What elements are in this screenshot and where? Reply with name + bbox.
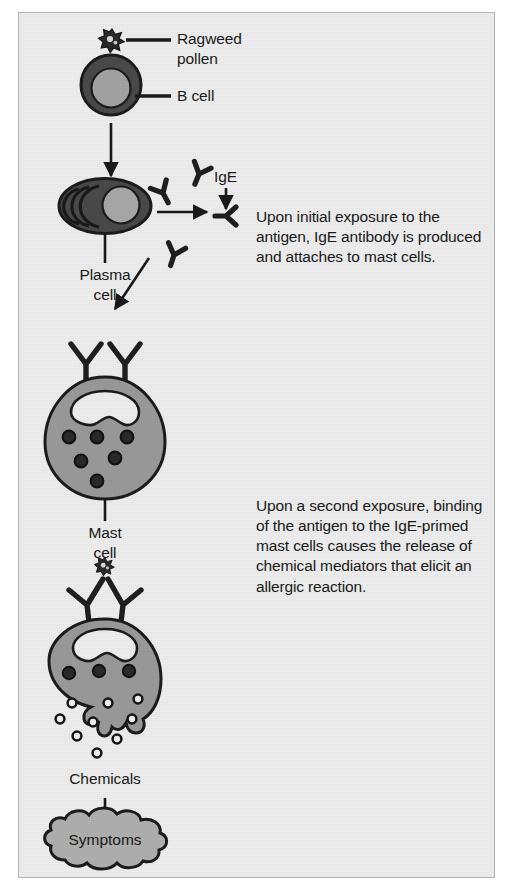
ige-antibody-icon [69, 579, 103, 622]
ige-antibody-icon [108, 579, 141, 622]
b-cell-icon [81, 55, 141, 115]
label-ragweed-pollen-line2: pollen [177, 50, 218, 68]
ragweed-pollen-icon [99, 29, 125, 53]
mast-cell-icon [45, 344, 165, 499]
annotation-step1: Upon initial exposure to the antigen, Ig… [256, 207, 488, 267]
label-symptoms: Symptoms [68, 831, 141, 849]
label-plasma-cell-line2: cell [94, 286, 117, 304]
ige-antibody-icon [71, 344, 101, 381]
diagram-artwork [19, 13, 495, 878]
label-ragweed-pollen-line1: Ragweed [177, 30, 242, 48]
ige-antibody-icon [215, 207, 236, 225]
label-plasma-cell-line1: Plasma [79, 266, 130, 284]
ige-antibody-icon [187, 161, 212, 187]
plasma-cell-icon [59, 179, 151, 234]
ige-antibody-icon [162, 243, 186, 269]
degranulating-mast-cell-icon [49, 557, 161, 757]
ige-antibody-icon [150, 180, 176, 207]
label-chemicals: Chemicals [69, 770, 140, 788]
label-ige: IgE [214, 168, 237, 186]
label-mast-cell-line1: Mast [88, 524, 121, 542]
annotation-step2: Upon a second exposure, binding of the a… [256, 496, 488, 597]
ige-antibody-icon [110, 344, 140, 381]
label-mast-cell-line2: cell [94, 544, 117, 562]
figure-panel: Ragweed pollen B cell IgE Plasma cell Ma… [18, 12, 495, 878]
label-b-cell: B cell [177, 87, 214, 105]
